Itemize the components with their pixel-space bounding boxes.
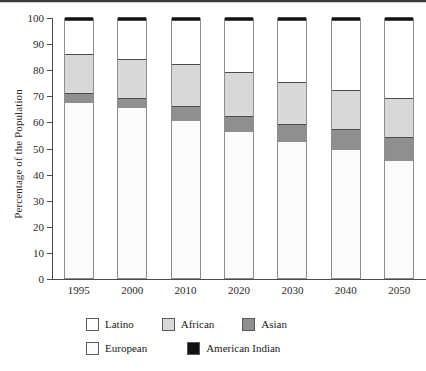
x-tick-label-2030: 2030 bbox=[281, 284, 303, 296]
bar-slot-2030 bbox=[266, 18, 319, 279]
segment-latino-2030 bbox=[278, 20, 306, 83]
bar-slot-1995 bbox=[52, 18, 105, 279]
segment-latino-2020 bbox=[225, 20, 253, 72]
segment-african-2000 bbox=[118, 59, 146, 98]
legend-swatch-african-icon bbox=[162, 318, 175, 331]
segment-african-2020 bbox=[225, 72, 253, 116]
segment-american-indian-2030 bbox=[278, 17, 306, 20]
y-tick-label: 60 bbox=[33, 117, 44, 128]
bar-slot-2010 bbox=[159, 18, 212, 279]
segment-european-2040 bbox=[332, 150, 360, 278]
x-tick-label-2020: 2020 bbox=[228, 284, 250, 296]
legend-label: Latino bbox=[105, 318, 134, 330]
x-tick-label-2050: 2050 bbox=[388, 284, 410, 296]
bar-2030[interactable] bbox=[277, 18, 307, 279]
segment-european-1995 bbox=[65, 103, 93, 278]
bar-2040[interactable] bbox=[331, 18, 361, 279]
y-tick-label: 20 bbox=[33, 221, 44, 232]
legend-label: Asian bbox=[261, 318, 287, 330]
legend-swatch-asian-icon bbox=[242, 318, 255, 331]
segment-latino-1995 bbox=[65, 20, 93, 54]
legend-row-1: LatinoAfricanAsian bbox=[52, 312, 426, 336]
segment-european-2000 bbox=[118, 108, 146, 278]
segment-asian-2030 bbox=[278, 124, 306, 142]
x-axis-labels: 1995200020102020203020402050 bbox=[52, 284, 426, 302]
segment-asian-2040 bbox=[332, 129, 360, 150]
legend-label: European bbox=[105, 342, 147, 354]
y-tick-label: 10 bbox=[33, 247, 44, 258]
segment-african-2040 bbox=[332, 90, 360, 129]
bar-slot-2000 bbox=[105, 18, 158, 279]
segment-african-2010 bbox=[172, 64, 200, 106]
bar-group bbox=[52, 18, 426, 279]
bar-1995[interactable] bbox=[64, 18, 94, 279]
legend-item-european[interactable]: European bbox=[86, 342, 147, 355]
legend-swatch-amerindian-icon bbox=[187, 342, 200, 355]
x-tick-label-2040: 2040 bbox=[335, 284, 357, 296]
segment-american-indian-2020 bbox=[225, 17, 253, 20]
y-tick-label: 100 bbox=[28, 13, 45, 24]
segment-american-indian-2000 bbox=[118, 17, 146, 20]
legend-label: American Indian bbox=[206, 342, 280, 354]
legend-item-african[interactable]: African bbox=[162, 318, 215, 331]
segment-african-1995 bbox=[65, 54, 93, 93]
x-axis-line bbox=[52, 279, 426, 280]
bar-slot-2040 bbox=[319, 18, 372, 279]
segment-african-2030 bbox=[278, 82, 306, 124]
segment-asian-2010 bbox=[172, 106, 200, 122]
bar-2050[interactable] bbox=[384, 18, 414, 279]
x-tick-label-2000: 2000 bbox=[121, 284, 143, 296]
segment-american-indian-2050 bbox=[385, 17, 413, 20]
segment-asian-2000 bbox=[118, 98, 146, 108]
x-tick-label-2010: 2010 bbox=[175, 284, 197, 296]
segment-european-2030 bbox=[278, 142, 306, 278]
y-tick-mark bbox=[47, 279, 52, 280]
bar-slot-2020 bbox=[212, 18, 265, 279]
bar-2020[interactable] bbox=[224, 18, 254, 279]
plot-area: 1009080706050403020100 bbox=[52, 18, 426, 279]
segment-asian-1995 bbox=[65, 93, 93, 103]
legend-item-latino[interactable]: Latino bbox=[86, 318, 134, 331]
segment-latino-2010 bbox=[172, 20, 200, 64]
y-tick-label: 90 bbox=[33, 39, 44, 50]
y-tick-label: 70 bbox=[33, 91, 44, 102]
y-tick-label: 30 bbox=[33, 195, 44, 206]
bar-2000[interactable] bbox=[117, 18, 147, 279]
legend-item-asian[interactable]: Asian bbox=[242, 318, 287, 331]
segment-european-2020 bbox=[225, 132, 253, 278]
chart-legend: LatinoAfricanAsian EuropeanAmerican Indi… bbox=[52, 312, 426, 360]
legend-label: African bbox=[181, 318, 215, 330]
segment-asian-2020 bbox=[225, 116, 253, 132]
segment-american-indian-2040 bbox=[332, 17, 360, 20]
y-axis-title: Percentage of the Population bbox=[12, 44, 24, 264]
bar-2010[interactable] bbox=[171, 18, 201, 279]
segment-african-2050 bbox=[385, 98, 413, 137]
page-top-rule bbox=[0, 0, 426, 3]
y-tick-label: 80 bbox=[33, 65, 44, 76]
legend-swatch-european-icon bbox=[86, 342, 99, 355]
legend-swatch-latino-icon bbox=[86, 318, 99, 331]
legend-row-2: EuropeanAmerican Indian bbox=[52, 336, 426, 360]
legend-item-amerindian[interactable]: American Indian bbox=[187, 342, 280, 355]
segment-american-indian-2010 bbox=[172, 17, 200, 20]
segment-asian-2050 bbox=[385, 137, 413, 160]
y-tick-label: 0 bbox=[39, 274, 45, 285]
y-tick-label: 40 bbox=[33, 169, 44, 180]
segment-latino-2040 bbox=[332, 20, 360, 90]
segment-american-indian-1995 bbox=[65, 17, 93, 20]
segment-latino-2050 bbox=[385, 20, 413, 98]
segment-european-2050 bbox=[385, 161, 413, 278]
x-tick-label-1995: 1995 bbox=[68, 284, 90, 296]
segment-latino-2000 bbox=[118, 20, 146, 59]
figure-stacked-bar-chart: Percentage of the Population 10090807060… bbox=[0, 0, 426, 371]
bar-slot-2050 bbox=[373, 18, 426, 279]
segment-european-2010 bbox=[172, 121, 200, 278]
y-tick-label: 50 bbox=[33, 143, 44, 154]
